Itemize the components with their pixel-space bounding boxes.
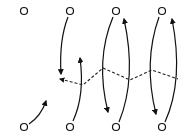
node-bottom-3 (113, 124, 120, 131)
arrow-bottom4-up-arrow-icon (165, 19, 177, 122)
node-top-3 (113, 8, 120, 15)
node-bottom-4 (159, 124, 166, 131)
dashed-zigzag-arrow-icon (60, 68, 178, 85)
node-top-2 (67, 8, 74, 15)
node-bottom-1 (21, 124, 28, 131)
dashed-path-group (60, 68, 178, 85)
nodes-group (21, 8, 166, 131)
node-top-4 (159, 8, 166, 15)
node-top-1 (21, 8, 28, 15)
arrow-bottom3-up-arrow-icon (119, 19, 129, 122)
arrow-top4-down-arrow-icon (150, 17, 159, 114)
arrow-top3-down-arrow-icon (103, 17, 113, 112)
arrow-bottom1-up-arrow-icon (29, 101, 46, 124)
node-bottom-2 (67, 124, 74, 131)
arrow-bottom2-up-arrow-icon (73, 58, 81, 121)
diagram-canvas (0, 0, 191, 140)
arrow-top2-down-arrow-icon (61, 17, 68, 74)
